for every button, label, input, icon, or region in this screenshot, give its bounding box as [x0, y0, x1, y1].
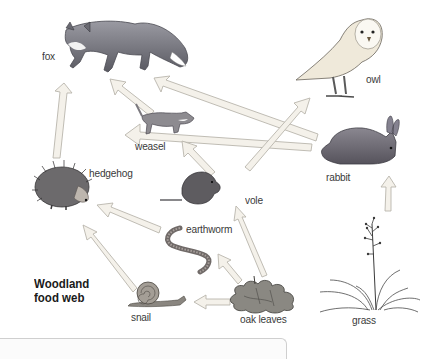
- grass-illustration: [320, 217, 420, 312]
- label-rabbit: rabbit: [326, 171, 350, 183]
- label-earthworm: earthworm: [186, 223, 232, 235]
- arrow-rabbit-to-fox: [154, 76, 318, 141]
- snail-illustration: [128, 282, 186, 307]
- arrow-snail-to-hedgehog: [83, 225, 137, 292]
- owl-illustration: [296, 19, 382, 97]
- diagram-title: Woodland food web: [34, 277, 89, 305]
- vole-illustration: [160, 172, 220, 204]
- label-vole: vole: [245, 194, 263, 206]
- arrow-weasel-to-fox: [110, 79, 154, 116]
- label-grass: grass: [352, 314, 376, 326]
- caption-panel-edge: [0, 338, 287, 359]
- label-weasel: weasel: [135, 140, 165, 152]
- label-oak-leaves: oak leaves: [240, 313, 287, 325]
- arrow-hedgehog-to-fox: [53, 83, 72, 158]
- label-fox: fox: [42, 50, 55, 62]
- label-hedgehog: hedgehog: [89, 167, 133, 179]
- label-owl: owl: [366, 73, 381, 85]
- hedgehog-illustration: [32, 160, 92, 210]
- title-line-1: Woodland: [34, 277, 89, 291]
- arrows: [53, 76, 396, 309]
- arrow-grass-to-rabbit: [381, 176, 396, 211]
- arrow-vole-to-weasel: [182, 141, 215, 176]
- arrow-oak-to-snail: [194, 295, 230, 309]
- rabbit-illustration: [321, 116, 399, 164]
- label-snail: snail: [131, 311, 151, 323]
- title-line-2: food web: [34, 291, 89, 305]
- arrow-oak-to-earthworm: [218, 254, 242, 284]
- fox-illustration: [65, 21, 188, 72]
- arrow-oak-to-vole: [234, 206, 267, 277]
- arrow-earthworm-to-hedgehog: [97, 203, 161, 233]
